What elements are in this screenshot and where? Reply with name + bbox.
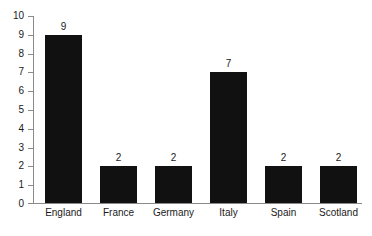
x-tick-label-france: France bbox=[88, 207, 149, 219]
bar-value-label: 2 bbox=[100, 153, 137, 163]
x-tick-label-england: England bbox=[33, 207, 94, 219]
bar-value-label: 2 bbox=[155, 153, 192, 163]
bars-layer: 9 2 2 7 2 2 bbox=[0, 0, 372, 236]
bar-value-label: 2 bbox=[320, 153, 357, 163]
bar-value-label: 2 bbox=[265, 153, 302, 163]
bar bbox=[265, 166, 302, 203]
x-tick-label-germany: Germany bbox=[143, 207, 204, 219]
x-tick-label-scotland: Scotland bbox=[308, 207, 369, 219]
bar bbox=[100, 166, 137, 203]
x-tick-label-italy: Italy bbox=[198, 207, 259, 219]
bar bbox=[210, 72, 247, 203]
bar-chart: 10 9 8 7 6 5 4 3 2 1 0 9 2 2 bbox=[0, 0, 372, 236]
bar bbox=[320, 166, 357, 203]
bar-value-label: 7 bbox=[210, 59, 247, 69]
x-tick-label-spain: Spain bbox=[253, 207, 314, 219]
bar bbox=[45, 35, 82, 203]
bar bbox=[155, 166, 192, 203]
bar-value-label: 9 bbox=[45, 22, 82, 32]
